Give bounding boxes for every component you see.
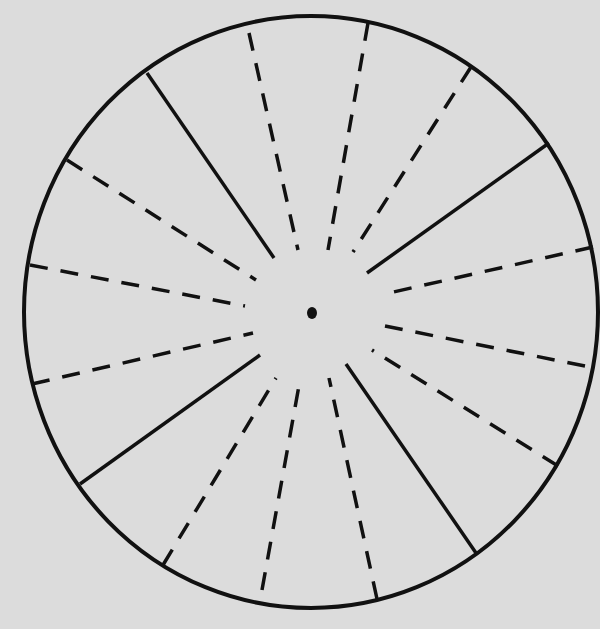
dashed-spoke (30, 265, 245, 306)
dashed-spoke (328, 23, 368, 250)
dashed-spoke (262, 380, 300, 590)
solid-spoke (346, 364, 476, 553)
solid-spoke (147, 73, 274, 258)
dashed-spoke (385, 326, 585, 366)
radial-wheel-diagram (0, 0, 600, 629)
center-dot (307, 307, 317, 319)
solid-spoke (367, 143, 549, 273)
dashed-spoke (329, 378, 377, 599)
dashed-spoke (372, 350, 558, 466)
solid-spoke (80, 355, 260, 484)
dashed-spoke (389, 247, 593, 293)
dashed-spoke (32, 333, 253, 384)
dashed-spoke (163, 378, 276, 565)
dashed-spoke (353, 67, 471, 252)
dashed-spoke (249, 33, 298, 250)
dashed-spoke (67, 160, 256, 280)
